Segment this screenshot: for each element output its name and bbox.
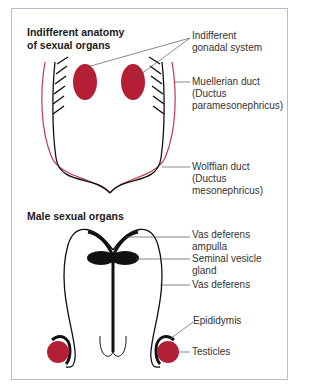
leader-epididymis bbox=[170, 322, 193, 339]
title-line: of sexual organs bbox=[27, 39, 124, 52]
label-line: Wolffian duct bbox=[192, 161, 263, 173]
label-line: Muellerian duct bbox=[192, 76, 283, 88]
label-vas-deferens-ampulla: Vas deferens ampulla bbox=[192, 229, 250, 253]
seminal-vesicle-right bbox=[111, 251, 139, 265]
label-wolffian-duct: Wolffian duct (Ductus mesonephricus) bbox=[192, 161, 263, 197]
section-title-indifferent: Indifferent anatomy of sexual organs bbox=[27, 26, 124, 51]
label-line: Vas deferens bbox=[192, 229, 250, 241]
label-line: gland bbox=[192, 265, 261, 277]
label-line: (Ductus bbox=[192, 173, 263, 185]
section-title-male: Male sexual organs bbox=[27, 210, 124, 223]
label-line: gonadal system bbox=[192, 42, 262, 54]
label-line: Seminal vesicle bbox=[192, 253, 261, 265]
label-epididymis: Epididymis bbox=[193, 315, 241, 327]
gonad-left bbox=[73, 64, 97, 100]
muellerian-duct bbox=[42, 62, 175, 193]
label-line: ampulla bbox=[192, 241, 250, 253]
label-line: paramesonephricus) bbox=[192, 100, 283, 112]
label-line: (Ductus bbox=[192, 88, 283, 100]
label-line: Indifferent bbox=[192, 30, 262, 42]
label-line: mesonephricus) bbox=[192, 185, 263, 197]
seminal-vesicle-left bbox=[87, 251, 115, 265]
title-line: Indifferent anatomy bbox=[27, 26, 124, 39]
label-indifferent-gonadal-system: Indifferent gonadal system bbox=[192, 30, 262, 54]
label-muellerian-duct: Muellerian duct (Ductus paramesonephricu… bbox=[192, 76, 283, 112]
gonad-right bbox=[121, 64, 145, 100]
label-seminal-vesicle-gland: Seminal vesicle gland bbox=[192, 253, 261, 277]
label-vas-deferens: Vas deferens bbox=[192, 279, 250, 291]
leader-gonadal-right bbox=[133, 38, 190, 80]
testicle-left bbox=[47, 341, 69, 363]
label-testicles: Testicles bbox=[192, 346, 230, 358]
